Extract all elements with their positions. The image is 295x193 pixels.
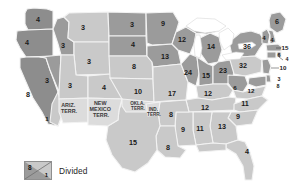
label-louisiana: 8: [166, 143, 170, 152]
label-illinois: 24: [184, 68, 192, 77]
state-montana[interactable]: [64, 12, 109, 42]
label-pennsylvania: 32: [239, 61, 247, 70]
label-ohio: 23: [219, 66, 227, 75]
label-california: 8: [26, 90, 30, 99]
label-south-dakota: 4: [131, 40, 135, 49]
state-north-dakota[interactable]: [108, 12, 146, 36]
state-oregon[interactable]: [16, 29, 53, 57]
label-new-hampshire: 4: [270, 36, 274, 43]
label-michigan: 14: [207, 42, 215, 51]
state-massachusetts[interactable]: [266, 44, 282, 51]
label-washington: 4: [36, 15, 40, 24]
territory-label-indian: IND. TERR.: [147, 107, 161, 117]
state-florida-panhandle[interactable]: [196, 143, 226, 152]
label-maryland: 8: [277, 83, 280, 89]
label-west-virginia: 6: [233, 84, 237, 91]
legend-label: Divided: [59, 166, 88, 176]
label-alabama: 11: [196, 124, 204, 133]
label-wisconsin: 12: [178, 35, 186, 44]
label-delaware: 3: [278, 76, 281, 82]
state-wyoming[interactable]: [74, 42, 110, 75]
label-florida: 4: [245, 147, 249, 156]
legend-lower-value: 1: [45, 172, 48, 178]
label-minnesota: 9: [161, 19, 165, 28]
label-nevada: 3: [45, 76, 49, 85]
label-new-jersey: 10: [280, 64, 287, 71]
territory-label-arizona: ARIZ. TERR.: [61, 102, 78, 114]
label-iowa: 13: [161, 52, 169, 61]
state-nebraska[interactable]: [109, 56, 153, 79]
label-new-york: 36: [243, 42, 251, 51]
map-legend: 8 1 Divided: [24, 161, 88, 180]
label-massachusetts: 15: [282, 44, 289, 51]
label-virginia: 12: [248, 87, 255, 94]
label-california-divided: 1: [45, 115, 49, 122]
label-tennessee: 12: [201, 103, 209, 112]
label-north-carolina: 11: [241, 99, 249, 108]
label-south-carolina: 9: [236, 112, 240, 121]
legend-upper-value: 8: [28, 164, 32, 171]
label-montana: 3: [81, 23, 85, 32]
label-arkansas: 8: [169, 110, 173, 119]
label-vermont: 4: [262, 34, 266, 41]
label-wyoming: 3: [87, 57, 91, 66]
legend-swatch-divided: 8 1: [24, 161, 52, 180]
state-maryland[interactable]: [248, 76, 266, 87]
state-delaware[interactable]: [266, 75, 271, 82]
label-georgia: 13: [218, 122, 226, 131]
state-connecticut[interactable]: [267, 52, 276, 58]
label-rhode-island: 4: [286, 56, 289, 62]
state-south-dakota[interactable]: [109, 36, 147, 56]
label-oregon: 4: [25, 38, 29, 47]
label-kentucky: 12: [204, 89, 212, 98]
label-north-dakota: 3: [130, 20, 134, 29]
state-florida[interactable]: [226, 140, 254, 180]
label-utah: 3: [68, 81, 72, 90]
label-kansas: 10: [134, 87, 142, 96]
label-maine: 6: [275, 17, 279, 26]
label-colorado: 4: [102, 83, 106, 92]
label-nebraska: 8: [132, 62, 136, 71]
map-container: 4 4 8 1 3 3 3 3 3 4 3 4 8 10 9 13 17 12 …: [0, 0, 295, 193]
state-mississippi[interactable]: [175, 112, 196, 146]
label-texas: 15: [129, 138, 137, 147]
state-new-jersey[interactable]: [262, 59, 271, 74]
territory-label-oklahoma: OKLA. TERR.: [130, 101, 146, 111]
label-idaho: 3: [61, 41, 65, 50]
label-mississippi: 9: [181, 125, 185, 134]
lake-michigan: [194, 35, 202, 58]
label-missouri: 17: [168, 89, 176, 98]
label-indiana: 15: [202, 71, 210, 80]
